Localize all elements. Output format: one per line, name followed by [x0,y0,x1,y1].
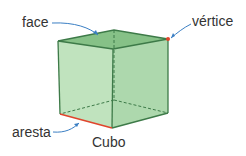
face-label: face [22,14,49,30]
vertex-label: vértice [192,13,233,29]
edge-label: aresta [12,124,51,140]
highlighted-vertex [166,37,170,41]
face-arrow-icon [52,23,98,35]
cube-diagram: face vértice aresta Cubo [0,0,246,156]
cube-title: Cubo [92,134,126,150]
